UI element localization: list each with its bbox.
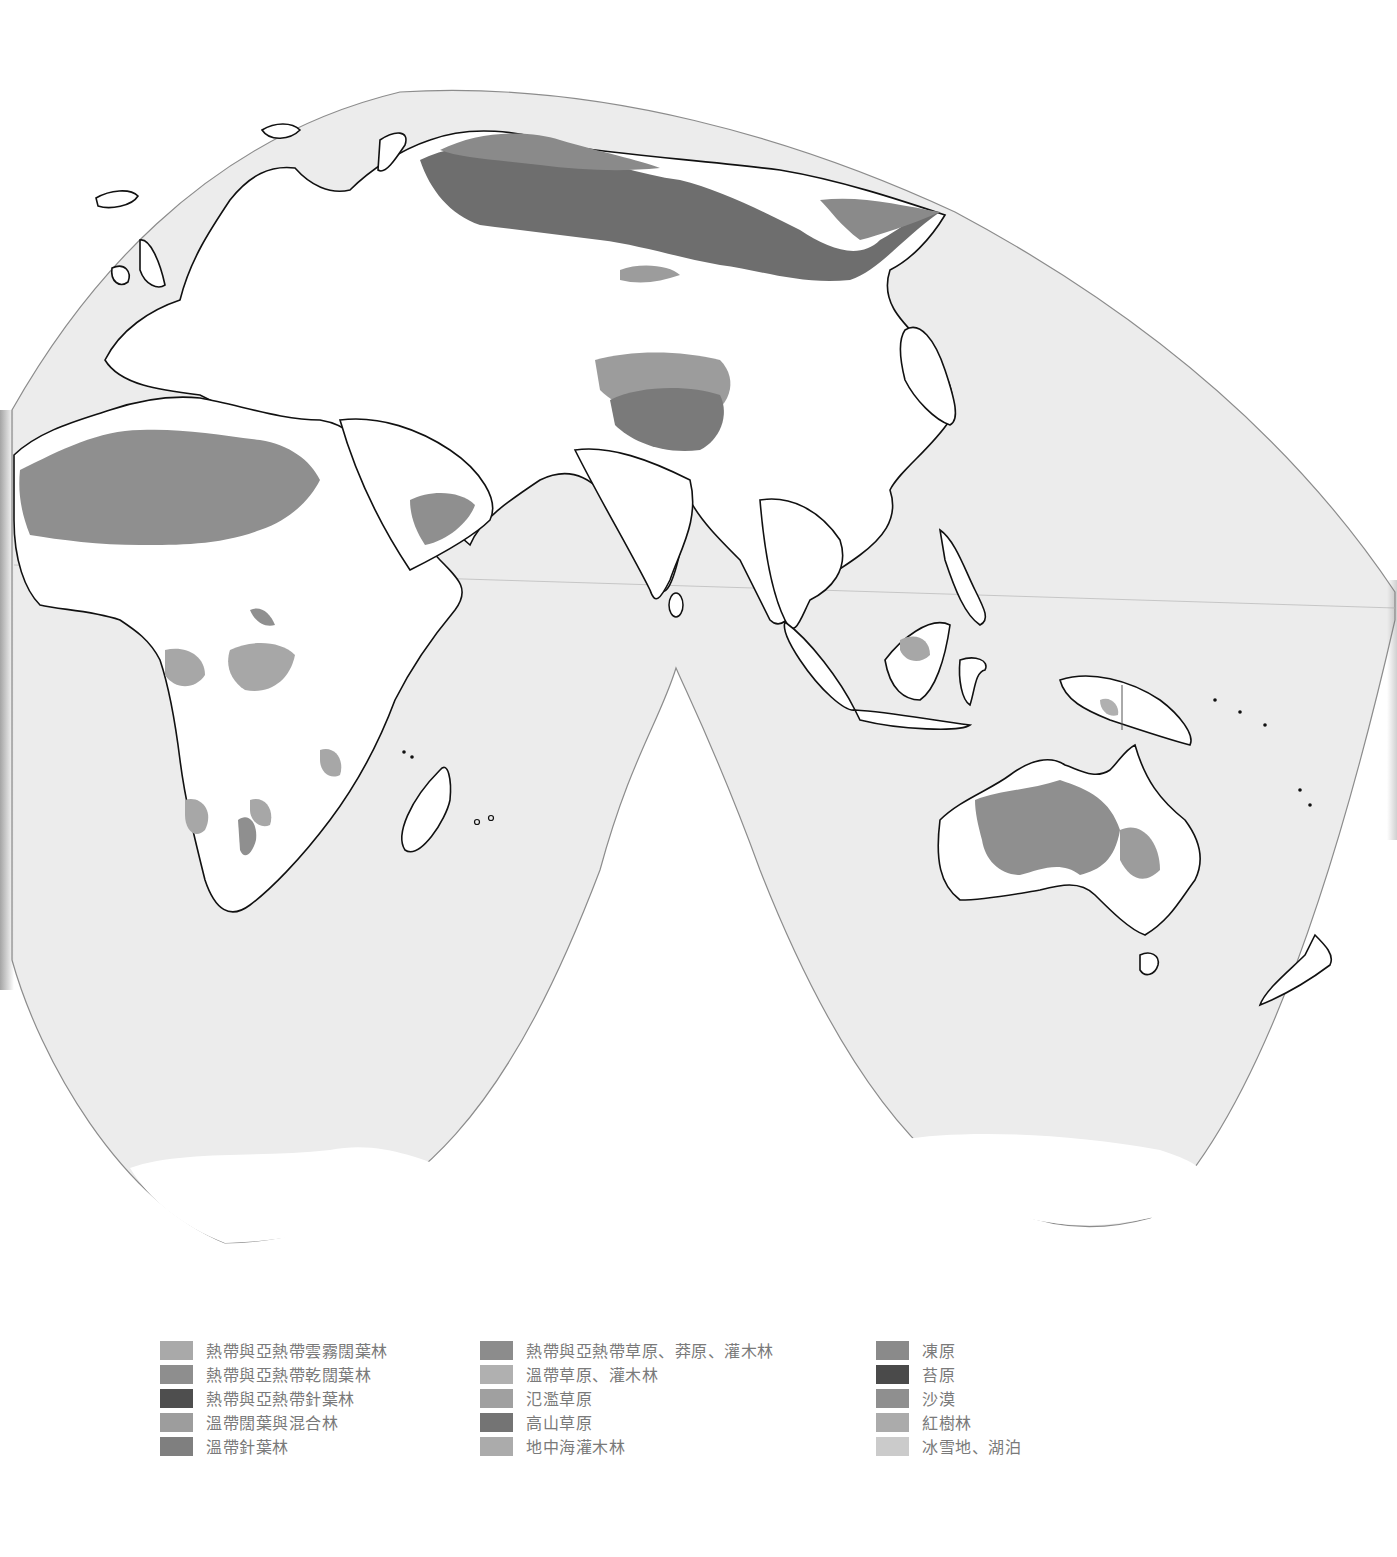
legend-item: 氾濫草原 <box>480 1386 774 1410</box>
legend-swatch <box>480 1413 513 1432</box>
legend-column-3: 凍原 苔原 沙漠 紅樹林 冰雪地、湖泊 <box>876 1338 1021 1458</box>
legend-label: 熱帶與亞熱帶雲霧闊葉林 <box>206 1338 388 1362</box>
legend-swatch <box>876 1437 909 1456</box>
legend-label: 紅樹林 <box>922 1410 972 1434</box>
legend-item: 熱帶與亞熱帶針葉林 <box>160 1386 388 1410</box>
legend-item: 熱帶與亞熱帶草原、莽原、灌木林 <box>480 1338 774 1362</box>
legend-label: 溫帶針葉林 <box>206 1434 289 1458</box>
legend-item: 紅樹林 <box>876 1410 1021 1434</box>
page-fold-shadow-left <box>0 410 14 990</box>
legend-label: 熱帶與亞熱帶草原、莽原、灌木林 <box>526 1338 774 1362</box>
legend-label: 溫帶闊葉與混合林 <box>206 1410 338 1434</box>
legend-label: 高山草原 <box>526 1410 592 1434</box>
ireland <box>112 266 129 284</box>
antarctica-left <box>130 1147 440 1243</box>
iceland <box>96 191 138 208</box>
legend-swatch <box>480 1389 513 1408</box>
legend-item: 冰雪地、湖泊 <box>876 1434 1021 1458</box>
legend-label: 冰雪地、湖泊 <box>922 1434 1021 1458</box>
legend-item: 地中海灌木林 <box>480 1434 774 1458</box>
legend-swatch <box>876 1413 909 1432</box>
legend-swatch <box>876 1341 909 1360</box>
legend-swatch <box>160 1389 193 1408</box>
legend-column-2: 熱帶與亞熱帶草原、莽原、灌木林 溫帶草原、灌木林 氾濫草原 高山草原 地中海灌木… <box>480 1338 774 1458</box>
legend-swatch <box>160 1437 193 1456</box>
legend-item: 高山草原 <box>480 1410 774 1434</box>
legend-swatch <box>160 1365 193 1384</box>
sri-lanka <box>669 593 683 617</box>
world-biome-map <box>0 0 1397 1300</box>
legend-item: 熱帶與亞熱帶雲霧闊葉林 <box>160 1338 388 1362</box>
legend-label: 地中海灌木林 <box>526 1434 625 1458</box>
legend-swatch <box>160 1413 193 1432</box>
legend-swatch <box>480 1341 513 1360</box>
map-legend: 熱帶與亞熱帶雲霧闊葉林 熱帶與亞熱帶乾闊葉林 熱帶與亞熱帶針葉林 溫帶闊葉與混合… <box>160 1338 1060 1458</box>
legend-item: 溫帶闊葉與混合林 <box>160 1410 388 1434</box>
legend-item: 熱帶與亞熱帶乾闊葉林 <box>160 1362 388 1386</box>
legend-item: 溫帶草原、灌木林 <box>480 1362 774 1386</box>
legend-item: 沙漠 <box>876 1386 1021 1410</box>
legend-swatch <box>480 1437 513 1456</box>
legend-label: 苔原 <box>922 1362 955 1386</box>
page-fold-shadow-right <box>1387 580 1397 840</box>
legend-column-1: 熱帶與亞熱帶雲霧闊葉林 熱帶與亞熱帶乾闊葉林 熱帶與亞熱帶針葉林 溫帶闊葉與混合… <box>160 1338 388 1458</box>
legend-label: 凍原 <box>922 1338 955 1362</box>
legend-swatch <box>876 1365 909 1384</box>
legend-swatch <box>160 1341 193 1360</box>
legend-label: 氾濫草原 <box>526 1386 592 1410</box>
tasmania <box>1140 953 1158 975</box>
legend-item: 溫帶針葉林 <box>160 1434 388 1458</box>
legend-label: 熱帶與亞熱帶針葉林 <box>206 1386 355 1410</box>
legend-item: 凍原 <box>876 1338 1021 1362</box>
legend-label: 溫帶草原、灌木林 <box>526 1362 658 1386</box>
legend-label: 熱帶與亞熱帶乾闊葉林 <box>206 1362 371 1386</box>
legend-swatch <box>876 1389 909 1408</box>
legend-label: 沙漠 <box>922 1386 955 1410</box>
legend-item: 苔原 <box>876 1362 1021 1386</box>
legend-swatch <box>480 1365 513 1384</box>
